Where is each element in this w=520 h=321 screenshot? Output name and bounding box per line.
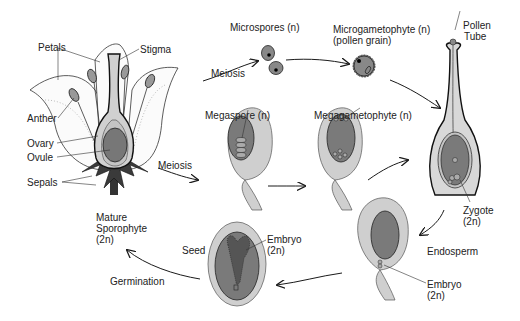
label-sporophyte: Sporophyte	[96, 223, 147, 234]
label-pollen-grain: (pollen grain)	[333, 35, 391, 46]
label-mature: Mature	[96, 212, 127, 223]
microspores	[262, 46, 284, 75]
pollen-grain	[353, 55, 375, 77]
label-zygote: Zygote	[463, 205, 494, 216]
ovule	[103, 128, 127, 162]
life-cycle-diagram: Petals Stigma Anther Ovary Ovule Sepals …	[0, 0, 520, 321]
label-megagametophyte: Megagametophyte (n)	[314, 110, 412, 121]
label-ovary: Ovary	[27, 138, 54, 149]
label-microspores: Microspores (n)	[230, 22, 299, 33]
label-tube: Tube	[464, 31, 486, 42]
label-meiosis-mid: Meiosis	[158, 160, 192, 171]
label-embryo-seed: Embryo	[267, 234, 301, 245]
label-pollen: Pollen	[463, 20, 491, 31]
label-endosperm: Endosperm	[427, 246, 478, 257]
label-embryo-seed-ploidy: (2n)	[267, 245, 285, 256]
megagametophyte-ovule	[318, 108, 362, 210]
label-ovule: Ovule	[27, 152, 53, 163]
seed	[208, 222, 266, 306]
label-meiosis-top: Meiosis	[211, 68, 245, 79]
label-sepals: Sepals	[27, 177, 58, 188]
label-microgametophyte: Microgametophyte (n)	[333, 24, 430, 35]
label-embryo-right-ploidy: (2n)	[427, 290, 445, 301]
label-zygote-ploidy: (2n)	[463, 216, 481, 227]
label-germination: Germination	[110, 276, 164, 287]
endosperm-ovule	[358, 198, 426, 300]
label-megaspore: Megaspore (n)	[205, 110, 270, 121]
label-sporophyte-ploidy: (2n)	[96, 234, 114, 245]
label-seed: Seed	[182, 245, 205, 256]
label-stigma: Stigma	[140, 44, 171, 55]
megaspore-ovule	[228, 108, 272, 210]
label-petals: Petals	[38, 42, 66, 53]
label-anther: Anther	[27, 113, 56, 124]
pollen-on-stigma	[450, 39, 456, 45]
label-embryo-right: Embryo	[427, 279, 461, 290]
